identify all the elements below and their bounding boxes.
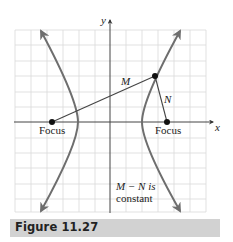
segment-m-label: M xyxy=(121,75,130,87)
figure-caption: Figure 11.27 xyxy=(15,220,98,234)
note-line-1: M − N is xyxy=(116,180,156,192)
note-text-1: M − N is xyxy=(116,180,156,192)
right-focus-label: Focus xyxy=(155,124,181,136)
note-line-2: constant xyxy=(116,192,153,204)
point-on-curve xyxy=(152,73,158,79)
left-focus-label: Focus xyxy=(39,124,65,136)
y-axis-label: y xyxy=(101,14,106,26)
hyperbola-figure: y x Focus Focus M N M − N is constant xyxy=(0,0,233,214)
segment-n-label: N xyxy=(164,93,171,105)
x-axis-label: x xyxy=(215,121,220,133)
caption-bar: Figure 11.27 xyxy=(10,219,220,237)
